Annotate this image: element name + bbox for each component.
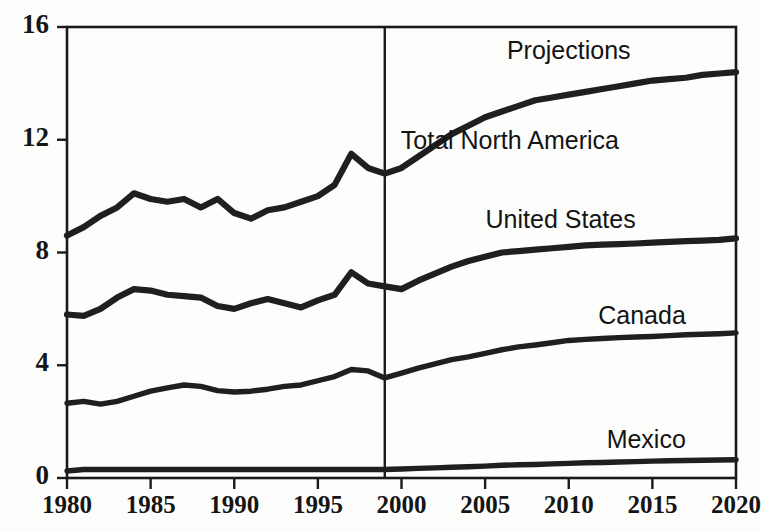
plot-frame	[67, 27, 736, 478]
y-tick-label: 4	[36, 347, 50, 377]
series-name-labels: Total North AmericaUnited StatesCanadaMe…	[401, 126, 686, 453]
y-axis-tick-labels: 0481216	[22, 9, 49, 490]
series-line-canada	[67, 333, 736, 404]
series-label-canada: Canada	[598, 301, 686, 329]
y-tick-label: 12	[22, 122, 49, 152]
x-tick-label: 2015	[627, 491, 677, 518]
x-tick-label: 1985	[126, 491, 176, 518]
x-tick-label: 2005	[460, 491, 510, 518]
x-tick-label: 1980	[42, 491, 92, 518]
x-tick-label: 1990	[209, 491, 259, 518]
y-tick-label: 0	[36, 460, 50, 490]
x-axis-tick-labels: 198019851990199520002005201020152020	[42, 491, 761, 518]
series-label-mexico: Mexico	[607, 425, 686, 453]
y-tick-label: 8	[36, 235, 50, 265]
period-annotations: HistoryProjections	[0, 36, 631, 64]
series-label-united-states: United States	[486, 205, 636, 233]
annotation-period-projections: Projections	[507, 36, 631, 64]
x-axis-ticks	[67, 478, 736, 489]
x-tick-label: 1995	[293, 491, 343, 518]
series-line-mexico	[67, 460, 736, 471]
y-tick-label: 16	[22, 9, 49, 39]
series-label-total-north-america: Total North America	[401, 126, 619, 154]
line-chart: 0481216 19801985199019952000200520102015…	[0, 0, 761, 531]
x-tick-label: 2000	[377, 491, 427, 518]
x-tick-label: 2010	[544, 491, 594, 518]
chart-container: 0481216 19801985199019952000200520102015…	[0, 0, 761, 531]
x-tick-label: 2020	[711, 491, 761, 518]
y-axis-ticks	[57, 27, 67, 478]
